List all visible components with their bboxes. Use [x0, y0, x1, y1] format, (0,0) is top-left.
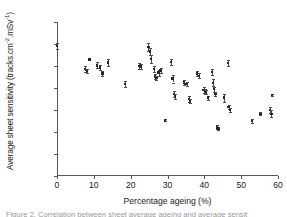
data-point	[56, 45, 58, 47]
error-bar-cap	[147, 43, 150, 44]
x-tick-label: 30	[155, 181, 181, 190]
x-tick-mark	[241, 176, 242, 179]
error-bar-cap	[170, 59, 173, 60]
error-bar-cap	[174, 99, 177, 100]
data-point	[259, 113, 261, 115]
data-point	[189, 100, 191, 102]
y-axis-title-end: )	[6, 12, 15, 15]
error-bar-cap	[172, 75, 175, 76]
error-bar-cap	[149, 48, 152, 49]
error-bar-cap	[189, 103, 192, 104]
error-bar-cap	[86, 73, 89, 74]
data-point	[217, 127, 219, 129]
y-axis-title-sup-1: -2	[4, 38, 10, 43]
data-point	[88, 58, 90, 60]
error-bar-cap	[158, 76, 161, 77]
error-bar-cap	[172, 83, 175, 84]
error-bar-cap	[217, 130, 220, 131]
error-bar-cap	[270, 110, 273, 111]
x-tick-mark	[278, 176, 279, 179]
figure-container: Average sheet sensitivity (tracks.cm-2.m…	[0, 0, 287, 217]
x-tick-mark	[57, 176, 58, 179]
data-point	[211, 71, 213, 73]
error-bar-cap	[207, 100, 210, 101]
y-axis-title-text: Average sheet sensitivity (tracks.cm	[6, 43, 15, 170]
data-point	[205, 91, 207, 93]
x-tick-mark	[94, 176, 95, 179]
y-axis-title-mid: .mSv	[6, 20, 15, 38]
error-bar-cap	[229, 112, 232, 113]
error-bar-cap	[56, 49, 59, 50]
data-point	[174, 95, 176, 97]
data-point	[198, 75, 200, 77]
y-tick-mark	[54, 110, 57, 111]
data-point	[153, 68, 155, 70]
y-tick-mark	[54, 22, 57, 23]
plot-area: 0100200300400500600700 0102030405060	[57, 22, 278, 176]
y-tick-mark	[54, 88, 57, 89]
error-bar-cap	[251, 123, 254, 124]
error-bar-cap	[107, 59, 110, 60]
data-point	[229, 109, 231, 111]
data-point	[107, 61, 109, 63]
data-point	[251, 120, 253, 122]
error-bar-cap	[155, 80, 158, 81]
data-point	[185, 83, 187, 85]
data-point	[214, 93, 216, 95]
data-point	[164, 119, 166, 121]
data-point	[223, 96, 225, 98]
data-point	[212, 82, 214, 84]
y-axis-title-sup-2: -1	[4, 15, 10, 20]
x-tick-label: 50	[228, 181, 254, 190]
error-bar-cap	[214, 96, 217, 97]
data-point	[270, 113, 272, 115]
data-point	[213, 88, 215, 90]
error-bar-cap	[107, 66, 110, 67]
x-tick-label: 10	[81, 181, 107, 190]
data-point	[99, 66, 101, 68]
error-bar-cap	[124, 87, 127, 88]
data-point	[170, 61, 172, 63]
data-point	[86, 70, 88, 72]
error-bar-cap	[170, 65, 173, 66]
error-bar-cap	[211, 75, 214, 76]
x-tick-label: 60	[265, 181, 287, 190]
x-tick-mark	[168, 176, 169, 179]
data-point	[159, 69, 161, 71]
data-point	[155, 77, 157, 79]
y-tick-mark	[54, 132, 57, 133]
error-bar-cap	[160, 73, 163, 74]
error-bar-cap	[96, 62, 99, 63]
y-tick-mark	[54, 66, 57, 67]
error-bar-cap	[153, 72, 156, 73]
x-tick-label: 20	[118, 181, 144, 190]
error-bar-cap	[56, 43, 59, 44]
error-bar-cap	[259, 115, 262, 116]
error-bar-cap	[212, 79, 215, 80]
error-bar-cap	[101, 76, 104, 77]
data-point	[140, 65, 142, 67]
error-bar-cap	[270, 117, 273, 118]
data-point	[171, 77, 173, 79]
data-point	[227, 62, 229, 64]
error-bar-cap	[140, 69, 143, 70]
x-tick-mark	[131, 176, 132, 179]
error-bar-cap	[223, 94, 226, 95]
error-bar-cap	[223, 102, 226, 103]
error-bar-cap	[186, 86, 189, 87]
y-axis-title: Average sheet sensitivity (tracks.cm-2.m…	[0, 0, 14, 182]
data-point	[150, 58, 152, 60]
x-axis-title: Percentage ageing (%)	[57, 196, 278, 206]
x-tick-label: 40	[191, 181, 217, 190]
data-point	[124, 83, 126, 85]
data-point	[149, 50, 151, 52]
figure-caption: Figure 2. Correlation between sheet aver…	[6, 210, 281, 217]
data-point	[101, 72, 103, 74]
error-bar-cap	[227, 66, 230, 67]
data-point	[271, 94, 273, 96]
y-tick-mark	[54, 154, 57, 155]
error-bar-cap	[150, 63, 153, 64]
x-tick-label: 0	[44, 181, 70, 190]
x-tick-mark	[204, 176, 205, 179]
data-point	[207, 96, 209, 98]
